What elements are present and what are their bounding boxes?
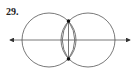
intersecting-circles-diagram: [0, 0, 139, 73]
intersection-point-top: [67, 19, 71, 23]
intersection-point-bottom: [67, 57, 71, 61]
